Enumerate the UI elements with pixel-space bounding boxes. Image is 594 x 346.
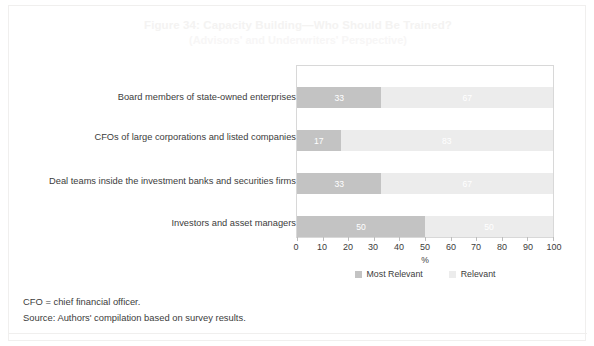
footnote-abbreviation: CFO = chief financial officer. [23,294,543,310]
x-tick-label: 30 [361,242,385,252]
figure-card: Figure 34: Capacity Building—Who Should … [8,5,586,341]
category-label-2: CFOs of large corporations and listed co… [16,132,296,143]
chart-legend: Most Relevant Relevant [296,269,554,279]
x-tick [451,237,452,241]
x-tick [399,237,400,241]
x-tick [527,237,528,241]
figure-footnotes: CFO = chief financial officer. Source: A… [23,294,543,326]
plot-box: 33 67 17 83 33 67 [296,65,554,238]
category-label-1: Board members of state-owned enterprises [16,92,296,103]
category-label-4: Investors and asset managers [16,218,296,229]
x-tick [553,237,554,241]
x-axis-ticks [297,66,553,237]
x-tick [297,237,298,241]
x-tick-label: 40 [387,242,411,252]
legend-item-relevant: Relevant [449,269,496,279]
x-tick-label: 10 [310,242,334,252]
legend-item-most-relevant: Most Relevant [355,269,423,279]
x-tick-label: 80 [490,242,514,252]
x-tick [502,237,503,241]
category-label-3: Deal teams inside the investment banks a… [16,176,296,187]
x-tick-label: 90 [516,242,540,252]
x-tick [425,237,426,241]
x-tick-label: 100 [542,242,566,252]
legend-swatch-icon [449,271,456,278]
x-tick [374,237,375,241]
chart-area: Board members of state-owned enterprises… [9,6,587,342]
x-tick-label: 0 [284,242,308,252]
x-tick [348,237,349,241]
legend-label-relevant: Relevant [461,269,496,279]
x-axis-label: % [296,255,554,265]
x-tick [323,237,324,241]
x-tick-label: 50 [413,242,437,252]
footnote-source: Source: Authors' compilation based on su… [23,310,543,326]
legend-swatch-icon [355,271,362,278]
legend-label-most-relevant: Most Relevant [367,269,423,279]
x-tick-label: 70 [464,242,488,252]
x-tick-label: 60 [439,242,463,252]
footer-divider [9,333,587,334]
x-tick [476,237,477,241]
x-tick-label: 20 [336,242,360,252]
